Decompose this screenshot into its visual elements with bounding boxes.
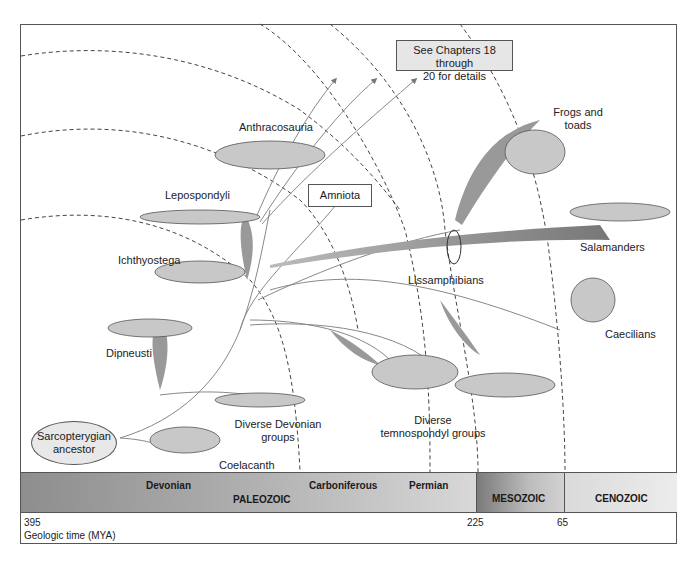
- anthracosauria-illustration: [215, 141, 325, 169]
- period-devonian: Devonian: [146, 480, 191, 491]
- era-paleozoic: Devonian Carboniferous Permian PALEOZOIC: [21, 473, 476, 512]
- caecilian-illustration: [571, 278, 615, 322]
- temnospondyl-line-2: temnospondyl groups: [378, 427, 488, 440]
- era-cenozoic: CENOZOIC: [564, 473, 677, 512]
- label-frogs-toads: Frogs and toads: [548, 106, 608, 132]
- sarcopterygian-ancestor-node: Sarcopterygian ancestor: [31, 421, 117, 465]
- label-ichthyostega: Ichthyostega: [118, 254, 180, 267]
- frog-illustration: [505, 130, 565, 174]
- amniota-label: Amniota: [308, 184, 372, 207]
- temnospondyl-illustration-2: [455, 373, 555, 397]
- tick-65: 65: [557, 517, 568, 528]
- salamander-illustration: [570, 203, 670, 221]
- geologic-timeline: Devonian Carboniferous Permian PALEOZOIC…: [21, 472, 676, 513]
- lepospondyli-illustration: [140, 210, 260, 224]
- ancestor-line-1: Sarcopterygian: [32, 430, 116, 443]
- era-label-paleozoic: PALEOZOIC: [233, 494, 291, 505]
- temnospondyl-illustration-1: [372, 355, 458, 389]
- label-devonian-groups: Diverse Devonian groups: [228, 418, 328, 444]
- callout-line-1: See Chapters 18 through: [397, 44, 512, 70]
- tick-395: 395: [24, 517, 41, 528]
- label-dipneusti: Dipneusti: [106, 347, 152, 360]
- frogs-line-2: toads: [548, 119, 608, 132]
- era-label-cenozoic: CENOZOIC: [595, 493, 648, 504]
- see-chapters-callout: See Chapters 18 through 20 for details: [396, 40, 513, 71]
- temnospondyl-line-1: Diverse: [378, 414, 488, 427]
- axis-label: Geologic time (MYA): [24, 530, 116, 541]
- label-anthracosauria: Anthracosauria: [239, 121, 313, 134]
- label-coelacanth: Coelacanth: [219, 459, 275, 472]
- callout-line-2: 20 for details: [397, 70, 512, 83]
- animal-illustrations: [108, 130, 670, 453]
- ancestor-line-2: ancestor: [32, 443, 116, 456]
- label-temnospondyl-groups: Diverse temnospondyl groups: [378, 414, 488, 440]
- dipneusti-illustration: [108, 319, 192, 337]
- label-lepospondyli: Lepospondyli: [165, 189, 230, 202]
- devonian-line-1: Diverse Devonian: [228, 418, 328, 431]
- era-mesozoic: MESOZOIC: [476, 473, 565, 512]
- devonian-fish-illustration: [215, 393, 305, 407]
- period-permian: Permian: [409, 480, 448, 491]
- era-label-mesozoic: MESOZOIC: [492, 493, 545, 504]
- devonian-line-2: groups: [228, 431, 328, 444]
- label-lissamphibians: Lissamphibians: [408, 274, 484, 287]
- label-caecilians: Caecilians: [605, 328, 656, 341]
- label-salamanders: Salamanders: [580, 241, 645, 254]
- period-carboniferous: Carboniferous: [309, 480, 377, 491]
- coelacanth-illustration: [150, 427, 220, 453]
- tick-225: 225: [467, 517, 484, 528]
- frogs-line-1: Frogs and: [548, 106, 608, 119]
